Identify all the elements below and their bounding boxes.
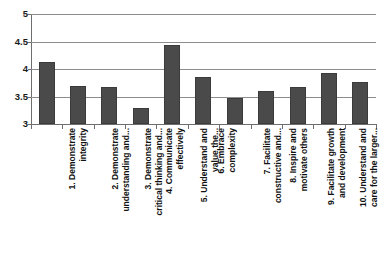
bar-slot: [188, 14, 219, 124]
x-axis-label-9: 9. Facilitate growth and development: [282, 128, 313, 252]
bar: [227, 98, 243, 124]
x-axis-label-4: 4. Communicate effectively: [125, 128, 156, 252]
bar: [39, 62, 55, 124]
y-tick-label-5: 5: [4, 9, 28, 18]
bar-chart-figure: 33.544.55 1. Demonstrate integrity2. Dem…: [0, 0, 388, 254]
x-axis-label-2: 2. Demonstrate understanding and...: [62, 128, 93, 252]
bar: [101, 87, 117, 124]
y-tick-label-3: 3: [4, 119, 28, 128]
bar-slot: [251, 14, 282, 124]
bar: [290, 87, 306, 124]
bar-slot: [94, 14, 125, 124]
bar: [258, 91, 274, 124]
x-axis-line: [31, 124, 377, 125]
y-tick-label-4.5: 4.5: [4, 37, 28, 46]
y-tick-label-4: 4: [4, 64, 28, 73]
bar: [70, 86, 86, 124]
x-axis-label-1: 1. Demonstrate integrity: [31, 128, 62, 252]
bar-slot: [345, 14, 376, 124]
bar-slot: [62, 14, 93, 124]
bar: [164, 45, 180, 124]
x-axis-label-3: 3. Demonstrate critical thinking and...: [94, 128, 125, 252]
bar: [321, 73, 337, 124]
x-axis-label-6: 6. Embrace complexity: [188, 128, 219, 252]
bar: [133, 108, 149, 125]
x-axis-label-8: 8. Inspire and motivate others: [251, 128, 282, 252]
bar-slot: [156, 14, 187, 124]
bar: [352, 82, 368, 124]
bar-slot: [313, 14, 344, 124]
x-axis-label-5: 5. Understand and value the...: [156, 128, 187, 252]
bar-slot: [31, 14, 62, 124]
x-axis-category-labels: 1. Demonstrate integrity2. Demonstrate u…: [31, 128, 376, 254]
plot-area: [31, 14, 376, 124]
bar-slot: [125, 14, 156, 124]
x-axis-label-11: A. WORK BEHAVIORS: [345, 128, 376, 252]
bar-slot: [282, 14, 313, 124]
x-axis-label-7: 7. Facilitate constructive and...: [219, 128, 250, 252]
x-axis-label-10: 10. Understand and care for the larger..…: [313, 128, 344, 252]
y-axis-tick-labels: 33.544.55: [0, 0, 28, 254]
bar: [195, 77, 211, 124]
y-tick-label-3.5: 3.5: [4, 92, 28, 101]
bar-slot: [219, 14, 250, 124]
